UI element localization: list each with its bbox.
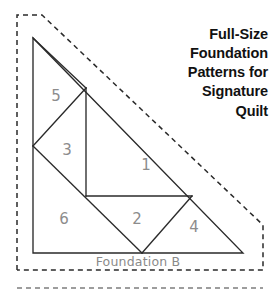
piece-number-5: 5 [51, 87, 61, 105]
page-title-line-4: Signature [118, 82, 268, 101]
page-title-line-1: Full-Size [118, 25, 268, 44]
seam-line-bottom-mid-to-right-mid [142, 196, 192, 253]
page-title-line-5: Quilt [118, 102, 268, 121]
piece-number-1: 1 [141, 156, 151, 174]
page-title: Full-SizeFoundationPatterns forSignature… [118, 25, 268, 121]
foundation-caption: Foundation B [33, 254, 243, 269]
page-title-line-3: Patterns for [118, 63, 268, 82]
seam-line-left-mid-to-bottom-mid [33, 146, 142, 253]
foundation-pattern-page: 123456 Full-SizeFoundationPatterns forSi… [0, 0, 277, 292]
piece-number-4: 4 [189, 218, 199, 236]
seam-line-apex-to-junction [33, 38, 86, 88]
piece-number-2: 2 [132, 210, 142, 228]
page-title-line-2: Foundation [118, 44, 268, 63]
piece-number-6: 6 [59, 210, 69, 228]
piece-number-3: 3 [62, 141, 72, 159]
